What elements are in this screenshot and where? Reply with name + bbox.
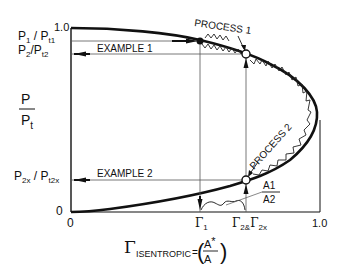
state1-point xyxy=(197,38,204,45)
process1-label: PROCESS 1 xyxy=(194,17,253,36)
process1-zigzag-upper xyxy=(205,34,229,41)
y-tick-bottom: 0 xyxy=(56,204,63,218)
svg-text:A: A xyxy=(204,253,212,265)
isentropic-pressure-ratio-diagram: 1.0 0 P1 / Pt1 P2/Pt2 P2x / Pt2x P Pt EX… xyxy=(0,0,342,276)
svg-text:P2/Pt2: P2/Pt2 xyxy=(18,43,49,59)
example2-label: EXAMPLE 2 xyxy=(97,168,153,179)
p2-ratio-label: P2/Pt2 xyxy=(18,43,49,59)
svg-text:Γ: Γ xyxy=(124,237,136,257)
gamma2-gamma2x-label: Γ2&Γ2x xyxy=(232,216,267,232)
y-axis-title: P Pt xyxy=(19,91,35,131)
x-tick-left: 0 xyxy=(67,216,74,230)
isentropic-curve xyxy=(71,28,317,212)
svg-text:A*: A* xyxy=(204,235,216,250)
svg-text:): ) xyxy=(220,239,227,264)
svg-text:Γ2&Γ2x: Γ2&Γ2x xyxy=(232,216,267,232)
svg-text:P2x / Pt2x: P2x / Pt2x xyxy=(14,169,59,185)
svg-text:A1: A1 xyxy=(263,180,276,191)
svg-text:P: P xyxy=(21,91,30,107)
state2x-point xyxy=(242,176,250,184)
svg-text:A2: A2 xyxy=(263,194,276,205)
arrow-up-to-state2 xyxy=(244,58,249,68)
area-ratio-bracket xyxy=(201,200,245,210)
example1-label: EXAMPLE 1 xyxy=(97,43,153,54)
process2-label: PROCESS 2 xyxy=(247,121,294,171)
x-tick-right: 1.0 xyxy=(312,217,327,229)
arrow-up-to-state2x xyxy=(244,184,249,194)
p2x-ratio-label: P2x / Pt2x xyxy=(14,169,59,185)
svg-text:Γ1: Γ1 xyxy=(195,216,208,232)
x-axis-title: Γ ISENTROPIC = ( A* A ) xyxy=(124,235,227,265)
gamma1-label: Γ1 xyxy=(195,216,208,232)
area-ratio-label: A1 A2 xyxy=(262,180,280,205)
state2-point xyxy=(242,50,250,58)
y-tick-top: 1.0 xyxy=(54,21,69,33)
svg-text:Pt: Pt xyxy=(21,112,33,131)
svg-text:ISENTROPIC: ISENTROPIC xyxy=(136,249,192,259)
